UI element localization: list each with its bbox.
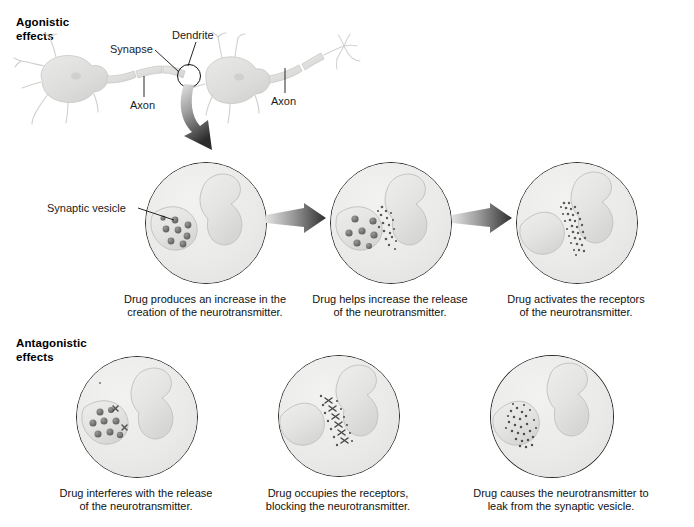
- panel-agonistic-3: [516, 162, 638, 284]
- figure-canvas: Agonistic effects Antagonistic effects: [0, 0, 694, 527]
- curved-arrow-to-panel-1: [150, 80, 270, 160]
- caption-agonistic-3: Drug activates the receptors of the neur…: [484, 293, 668, 320]
- panel-antagonistic-3-art: [491, 356, 613, 477]
- caption-antagonistic-1: Drug interferes with the release of the …: [44, 487, 228, 514]
- panel-antagonistic-1-art: [77, 357, 197, 477]
- panel-antagonistic-2-art: [279, 356, 399, 476]
- panel-antagonistic-3: [490, 355, 614, 478]
- caption-antagonistic-2: Drug occupies the receptors, blocking th…: [246, 487, 430, 514]
- arrow-agonistic-1-to-2: [266, 203, 328, 239]
- caption-antagonistic-3: Drug causes the neurotransmitter to leak…: [461, 487, 661, 514]
- label-axon-right: Axon: [271, 95, 296, 107]
- label-synapse: Synapse: [110, 43, 153, 55]
- panel-antagonistic-2: [278, 355, 400, 477]
- caption-agonistic-1: Drug produces an increase in the creatio…: [113, 293, 297, 320]
- panel-agonistic-2-art: [331, 163, 451, 283]
- synaptic-vesicle-leader: [130, 198, 190, 228]
- panel-agonistic-3-art: [517, 163, 637, 283]
- label-synaptic-vesicle: Synaptic vesicle: [47, 202, 126, 214]
- label-dendrite: Dendrite: [172, 29, 214, 41]
- panel-antagonistic-1: [76, 356, 198, 478]
- panel-agonistic-2: [330, 162, 452, 284]
- caption-agonistic-2: Drug helps increase the release of the n…: [298, 293, 482, 320]
- arrow-agonistic-2-to-3: [452, 203, 514, 239]
